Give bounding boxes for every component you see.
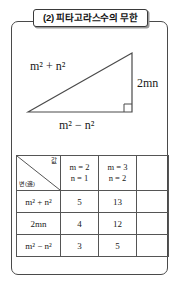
base-side-label: m² − n² <box>59 119 94 131</box>
values-table: 값 변(邊) m = 2 n = 1 m = 3 n = 2 <box>16 155 169 257</box>
pythagorean-triangle-figure: m² + n² 2mn m² − n² <box>11 34 168 140</box>
table-corner-header: 값 변(邊) <box>17 156 61 191</box>
corner-value-label: 값 <box>51 158 57 165</box>
row-1-col-1: 5 <box>61 191 99 213</box>
table-row: m² + n² 5 13 <box>17 191 169 213</box>
column-header-2-n: n = 2 <box>99 173 136 184</box>
column-header-1: m = 2 n = 1 <box>61 156 99 191</box>
column-header-3 <box>137 156 169 191</box>
row-2-col-2: 12 <box>99 213 137 235</box>
values-table-wrapper: 값 변(邊) m = 2 n = 1 m = 3 n = 2 <box>16 155 168 266</box>
row-1-col-2: 13 <box>99 191 137 213</box>
column-header-2: m = 3 n = 2 <box>99 156 137 191</box>
page-title: (2) 피타고라스수의 무한 <box>43 13 138 23</box>
table-row: 2mn 4 12 <box>17 213 169 235</box>
column-header-1-n: n = 1 <box>61 173 98 184</box>
row-3-col-1: 3 <box>61 235 99 257</box>
worksheet-page: (2) 피타고라스수의 무한 m² + n² 2mn m² − n² <box>0 0 181 292</box>
table-header-row: 값 변(邊) m = 2 n = 1 m = 3 n = 2 <box>17 156 169 191</box>
row-3-col-2: 5 <box>99 235 137 257</box>
row-3-side: m² − n² <box>17 235 61 257</box>
section-title-plate: (2) 피타고라스수의 무한 <box>33 9 148 27</box>
column-header-2-m: m = 3 <box>99 162 136 173</box>
table-row: m² − n² 3 5 <box>17 235 169 257</box>
corner-side-label: 변(邊) <box>19 181 35 187</box>
row-2-side: 2mn <box>17 213 61 235</box>
row-1-col-3 <box>137 191 169 213</box>
row-1-side: m² + n² <box>17 191 61 213</box>
hypotenuse-label: m² + n² <box>30 60 65 72</box>
row-3-col-3 <box>137 235 169 257</box>
column-header-1-m: m = 2 <box>61 162 98 173</box>
vertical-side-label: 2mn <box>137 77 158 89</box>
row-2-col-1: 4 <box>61 213 99 235</box>
row-2-col-3 <box>137 213 169 235</box>
right-angle-marker <box>124 104 132 112</box>
